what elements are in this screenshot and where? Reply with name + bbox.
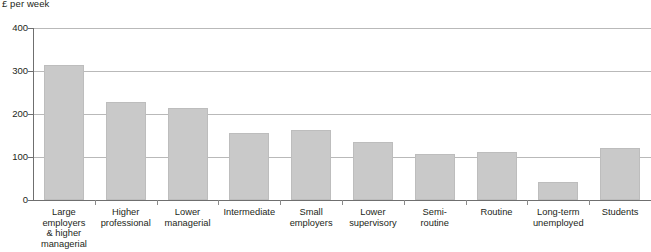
x-tick-mark [280, 200, 281, 205]
bar [477, 152, 517, 200]
y-axis-unit-caption: £ per week [2, 0, 49, 10]
x-tick-mark [527, 200, 528, 205]
y-tick-mark-0 [28, 200, 33, 201]
bar [415, 154, 455, 200]
y-tick-label-300: 300 [2, 66, 28, 76]
bar [353, 142, 393, 200]
category-label: Lower supervisory [342, 207, 404, 228]
bar [106, 102, 146, 200]
x-tick-mark [95, 200, 96, 205]
bar [229, 133, 269, 201]
bar [291, 130, 331, 200]
category-label: Intermediate [218, 207, 280, 218]
bar-chart: £ per week 0100200300400 Large employers… [0, 0, 651, 252]
category-label: Students [589, 207, 651, 218]
y-tick-label-0: 0 [2, 195, 28, 205]
category-label: Long-term unemployed [527, 207, 589, 228]
x-tick-mark [404, 200, 405, 205]
x-axis-category-labels: Large employers & higher managerialHighe… [33, 207, 651, 252]
x-tick-mark [589, 200, 590, 205]
y-tick-label-400: 400 [2, 23, 28, 33]
bar [168, 108, 208, 200]
x-tick-mark [342, 200, 343, 205]
y-axis-tick-labels: 0100200300400 [0, 28, 28, 201]
y-tick-label-100: 100 [2, 152, 28, 162]
x-tick-mark [218, 200, 219, 205]
bar [44, 65, 84, 200]
category-label: Higher professional [95, 207, 157, 228]
y-tick-label-200: 200 [2, 109, 28, 119]
category-label: Large employers & higher managerial [33, 207, 95, 249]
category-label: Routine [466, 207, 528, 218]
bars-layer [33, 28, 651, 200]
x-tick-mark [466, 200, 467, 205]
bar [538, 182, 578, 200]
category-label: Lower managerial [157, 207, 219, 228]
x-tick-mark [157, 200, 158, 205]
category-label: Semi- routine [404, 207, 466, 228]
category-label: Small employers [280, 207, 342, 228]
bar [600, 148, 640, 200]
